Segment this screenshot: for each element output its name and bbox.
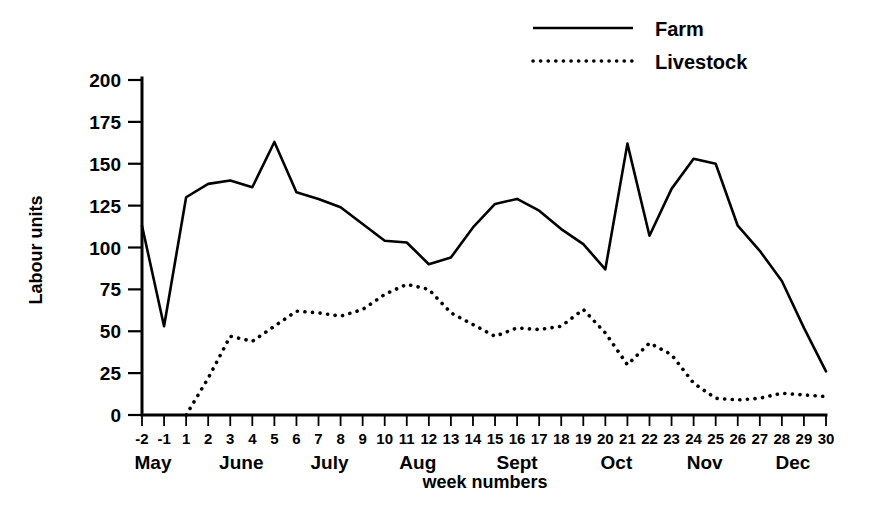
x-axis-title: week numbers (421, 472, 547, 492)
y-axis-tick-labels: 0255075100125150175200 (89, 70, 121, 426)
y-axis-ticks (128, 80, 142, 415)
series-line-livestock (186, 284, 826, 415)
x-tick-label: 27 (751, 430, 768, 447)
x-tick-label: -2 (135, 430, 148, 447)
x-tick-label: 26 (729, 430, 746, 447)
x-axis-ticks (142, 415, 826, 426)
x-tick-label: 3 (226, 430, 234, 447)
x-tick-label: 4 (248, 430, 257, 447)
y-tick-label: 200 (89, 70, 121, 91)
y-tick-label: 175 (89, 112, 121, 133)
x-tick-label: 12 (420, 430, 437, 447)
x-tick-label: 11 (399, 430, 415, 447)
x-tick-label: 18 (553, 430, 570, 447)
x-tick-label: 29 (796, 430, 813, 447)
month-label: June (219, 452, 263, 473)
x-axis-month-labels: MayJuneJulyAugSeptOctNovDec (135, 452, 811, 473)
series-line-farm (142, 142, 826, 371)
month-label: May (135, 452, 172, 473)
y-axis-title: Labour units (26, 196, 46, 305)
x-tick-label: 8 (336, 430, 344, 447)
x-tick-label: 14 (465, 430, 482, 447)
x-tick-label: 23 (663, 430, 680, 447)
x-tick-label: 24 (685, 430, 702, 447)
y-tick-label: 50 (100, 321, 121, 342)
y-tick-label: 0 (110, 405, 121, 426)
chart-legend: FarmLivestock (533, 18, 748, 73)
x-tick-label: 22 (641, 430, 658, 447)
x-tick-label: 21 (619, 430, 636, 447)
x-tick-label: 25 (707, 430, 724, 447)
month-label: Aug (399, 452, 436, 473)
chart-axes (142, 78, 826, 415)
x-tick-label: 9 (358, 430, 366, 447)
x-tick-label: 5 (270, 430, 278, 447)
month-label: Nov (687, 452, 723, 473)
month-label: Oct (601, 452, 633, 473)
x-tick-label: 17 (531, 430, 548, 447)
y-tick-label: 100 (89, 238, 121, 259)
x-tick-label: 15 (487, 430, 504, 447)
month-label: Sept (497, 452, 539, 473)
axis-lines (142, 78, 826, 415)
x-tick-label: 16 (509, 430, 526, 447)
x-tick-label: 10 (376, 430, 393, 447)
x-tick-label: -1 (157, 430, 170, 447)
chart-container: 0255075100125150175200 -2-11234567891011… (0, 0, 869, 519)
x-tick-label: 28 (774, 430, 791, 447)
x-tick-label: 13 (443, 430, 460, 447)
chart-series (142, 142, 826, 415)
line-chart: 0255075100125150175200 -2-11234567891011… (0, 0, 869, 519)
month-label: July (311, 452, 349, 473)
y-tick-label: 25 (100, 363, 122, 384)
x-tick-label: 7 (314, 430, 322, 447)
x-tick-label: 6 (292, 430, 300, 447)
x-tick-label: 1 (182, 430, 190, 447)
x-tick-label: 30 (818, 430, 835, 447)
x-tick-label: 20 (597, 430, 614, 447)
legend-label-farm: Farm (655, 18, 704, 40)
y-tick-label: 125 (89, 196, 121, 217)
x-tick-label: 19 (575, 430, 592, 447)
y-tick-label: 150 (89, 154, 121, 175)
legend-label-livestock: Livestock (655, 51, 748, 73)
x-tick-label: 2 (204, 430, 212, 447)
x-axis-tick-labels: -2-1123456789101112131415161718192021222… (135, 430, 834, 447)
y-tick-label: 75 (100, 279, 122, 300)
month-label: Dec (775, 452, 810, 473)
